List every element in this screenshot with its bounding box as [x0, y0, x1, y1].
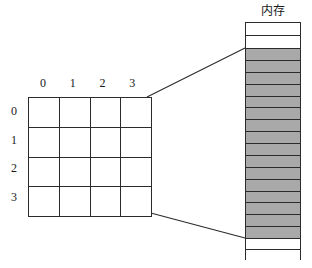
memory-slot-used: [246, 108, 300, 120]
array-memory-mapping-diagram: 0 1 2 3 0 1 2 3: [0, 0, 312, 268]
array-grid-row: [29, 127, 152, 157]
array-cell: [29, 127, 60, 157]
array-cell: [29, 157, 60, 187]
memory-slot-free: [246, 250, 300, 261]
memory-slot-free: [246, 23, 300, 36]
column-index-label-0: 0: [28, 74, 58, 92]
memory-slot-used: [246, 203, 300, 215]
array-cell: [59, 98, 90, 128]
row-index-label-3: 3: [6, 183, 22, 212]
array-grid-container: [28, 97, 147, 212]
array-cell: [121, 157, 152, 187]
column-index-label-1: 1: [58, 74, 88, 92]
array-grid-row: [29, 187, 152, 217]
memory-slot-used: [246, 156, 300, 168]
memory-slot-used: [246, 227, 300, 239]
top-connector-line: [147, 48, 245, 97]
array-cell: [121, 187, 152, 217]
memory-slot-used: [246, 61, 300, 73]
row-index-label-0: 0: [6, 97, 22, 126]
column-index-label-2: 2: [88, 74, 118, 92]
bottom-connector-line: [147, 212, 245, 238]
memory-slot-used: [246, 144, 300, 156]
array-grid-row: [29, 98, 152, 128]
array-cell: [90, 127, 121, 157]
memory-slot-used: [246, 180, 300, 192]
memory-slot-used: [246, 168, 300, 180]
array-cell: [59, 127, 90, 157]
row-index-label-2: 2: [6, 155, 22, 184]
memory-slot-used: [246, 85, 300, 97]
array-cell: [90, 98, 121, 128]
array-cell: [29, 98, 60, 128]
memory-column: [245, 22, 301, 260]
memory-slot-used: [246, 215, 300, 227]
array-cell: [121, 98, 152, 128]
memory-slot-used: [246, 120, 300, 132]
array-grid-row: [29, 157, 152, 187]
memory-slot-free: [246, 36, 300, 49]
row-index-labels: 0 1 2 3: [6, 97, 22, 212]
array-cell: [90, 157, 121, 187]
memory-slot-used: [246, 97, 300, 109]
array-cell: [59, 187, 90, 217]
memory-slot-used: [246, 49, 300, 61]
column-index-labels: 0 1 2 3: [28, 74, 147, 92]
array-cell: [29, 187, 60, 217]
row-index-label-1: 1: [6, 126, 22, 155]
memory-slot-used: [246, 73, 300, 85]
memory-title: 内存: [245, 3, 301, 19]
array-cell: [90, 187, 121, 217]
memory-slot-used: [246, 132, 300, 144]
array-cell: [121, 127, 152, 157]
memory-slot-free: [246, 239, 300, 250]
array-cell: [59, 157, 90, 187]
column-index-label-3: 3: [117, 74, 147, 92]
memory-slot-used: [246, 192, 300, 204]
array-grid: [28, 97, 152, 217]
